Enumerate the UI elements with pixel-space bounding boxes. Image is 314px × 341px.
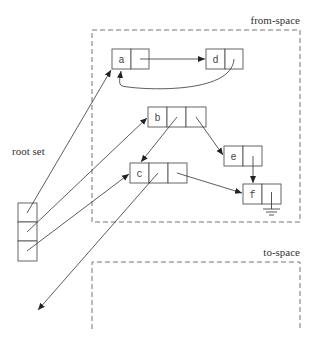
node-a-label: a <box>118 55 124 66</box>
to-space-label: to-space <box>263 246 300 258</box>
node-d: d <box>206 49 243 69</box>
edge-c-outside <box>38 173 158 310</box>
root-set-label: root set <box>12 145 45 157</box>
edge-root2-c <box>27 174 129 251</box>
from-space-label: from-space <box>251 14 301 26</box>
node-f: f <box>243 184 281 204</box>
edge-b-e <box>196 117 223 155</box>
to-space-region: to-space <box>92 246 300 329</box>
node-e: e <box>224 146 262 166</box>
node-d-label: d <box>212 55 218 66</box>
pointer-edges <box>27 59 253 310</box>
node-c: c <box>130 163 187 183</box>
node-f-label: f <box>249 190 255 201</box>
gc-diagram: from-space to-space root set a d b c <box>0 0 314 341</box>
node-c-label: c <box>136 169 142 180</box>
node-b-label: b <box>154 113 160 124</box>
edge-root1-b <box>27 118 147 232</box>
root-set: root set <box>12 145 45 261</box>
node-e-label: e <box>230 152 236 163</box>
